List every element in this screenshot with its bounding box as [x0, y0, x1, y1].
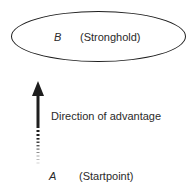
direction-arrow [0, 0, 196, 195]
arrow-label: Direction of advantage [51, 110, 161, 122]
startpoint-variable: A [49, 170, 56, 182]
startpoint-label: (Startpoint) [79, 170, 133, 182]
